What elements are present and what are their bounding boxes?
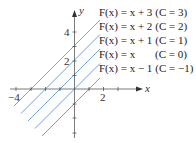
line-c-3 [14, 20, 100, 106]
line-c-2 [21, 35, 100, 114]
x-tick-label-neg4: −4 [8, 91, 20, 103]
label-c-2: F(x) = x + 2(C = 2) [99, 20, 188, 33]
antiderivative-family-chart: x −4 2 y 4 2 F(x) = x + 3(C = 3) F(x) = … [0, 0, 196, 143]
y-axis-label: y [78, 4, 84, 16]
line-c-neg1 [42, 78, 100, 136]
line-series [14, 20, 100, 136]
label-c-neg1: F(x) = x − 1(C = −1) [99, 62, 194, 75]
label-c-1: F(x) = x + 1(C = 1) [99, 34, 188, 47]
curve-labels: F(x) = x + 3(C = 3) F(x) = x + 2(C = 2) … [99, 6, 194, 75]
label-c-3: F(x) = x + 3(C = 3) [99, 6, 188, 19]
y-axis-arrow-icon [72, 10, 77, 17]
label-c-0: F(x) = x(C = 0) [99, 48, 187, 61]
x-axis-label: x [144, 82, 150, 94]
x-tick-label-2: 2 [100, 91, 106, 103]
y-tick-label-2: 2 [64, 55, 70, 67]
y-axis [73, 16, 77, 138]
line-c-0 [35, 64, 100, 129]
x-axis-arrow-icon [136, 87, 143, 92]
y-tick-label-4: 4 [64, 26, 70, 38]
